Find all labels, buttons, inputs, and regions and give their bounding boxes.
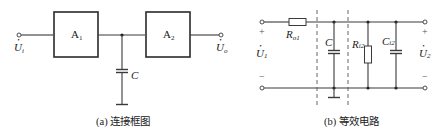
connection-block-diagram: A1 A2 C Ui • Uo • ( bbox=[14, 12, 228, 128]
shunt-capacitor-a bbox=[116, 35, 128, 105]
output-terminal-top-b bbox=[423, 20, 427, 24]
input-voltage-label-b: U1 bbox=[256, 47, 267, 60]
capacitor-ci2-label: Ci2 bbox=[382, 35, 395, 47]
circuit-figure: A1 A2 C Ui • Uo • ( bbox=[0, 0, 447, 139]
input-minus-sign: − bbox=[259, 71, 265, 82]
phasor-dot-input-b: • bbox=[260, 43, 262, 49]
output-voltage-label-a: Uo bbox=[216, 41, 228, 55]
phasor-dot-output-a: • bbox=[220, 37, 222, 43]
input-capacitor-ci2 bbox=[390, 22, 402, 88]
input-terminal-top-b bbox=[260, 20, 264, 24]
output-voltage-label-b: U2 bbox=[419, 47, 431, 60]
coupling-capacitor-c bbox=[328, 22, 340, 98]
caption-b: (b) 等效电路 bbox=[324, 115, 380, 128]
input-terminal-bottom-b bbox=[260, 86, 264, 90]
resistor-ro1-label: Ro1 bbox=[285, 28, 300, 42]
input-voltage-label-a: Ui bbox=[14, 41, 24, 55]
resistor-ri2-label: Ri2 bbox=[351, 38, 365, 50]
input-resistor-ri2 bbox=[365, 22, 372, 88]
capacitor-c-label: C bbox=[325, 36, 333, 48]
phasor-dot-input-a: • bbox=[18, 37, 20, 43]
output-terminal-bottom-b bbox=[423, 86, 427, 90]
phasor-dot-output-b: • bbox=[423, 43, 425, 49]
input-plus-sign: + bbox=[259, 26, 265, 37]
equivalent-circuit-diagram: Ro1 C Ri2 bbox=[256, 10, 431, 128]
output-plus-sign: + bbox=[422, 26, 428, 37]
capacitor-label-a: C bbox=[131, 69, 139, 81]
caption-a: (a) 连接框图 bbox=[96, 115, 150, 128]
output-resistor-ro1 bbox=[289, 19, 306, 26]
output-minus-sign: − bbox=[422, 71, 428, 82]
